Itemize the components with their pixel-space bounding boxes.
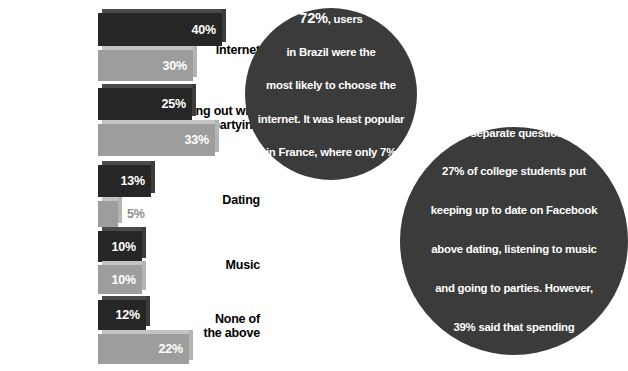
bar-top-face bbox=[102, 261, 146, 265]
bar-value-dating-light: 5% bbox=[127, 208, 145, 221]
callout-two-line2: answer to bbox=[489, 88, 540, 100]
callout-two-text: In answer to a separate question, 27% of… bbox=[405, 27, 623, 371]
bar-top-face bbox=[102, 296, 150, 300]
bar-top-face bbox=[102, 161, 155, 165]
bar-side-face bbox=[118, 197, 122, 223]
bar-value-dating-dark: 13% bbox=[121, 175, 145, 188]
callout-one-line4: most likely to choose the bbox=[266, 79, 396, 91]
bar-value-internet-dark: 40% bbox=[192, 23, 216, 36]
bar-music-light: 10% bbox=[98, 265, 142, 294]
bar-dating-dark: 13% bbox=[98, 165, 151, 197]
callout-two-line5: keeping up to date on Facebook bbox=[431, 204, 598, 216]
bar-top-face bbox=[102, 84, 196, 88]
bar-top-face bbox=[102, 46, 197, 50]
bar-top-face bbox=[102, 330, 193, 334]
callout-two-line7: and going to parties. However, bbox=[435, 282, 593, 294]
callout-one-line8: 54% chose dating. bbox=[283, 212, 378, 224]
bar-value-none-light: 22% bbox=[159, 343, 183, 356]
bar-value-none-dark: 12% bbox=[116, 309, 140, 322]
bar-side-face bbox=[222, 9, 226, 42]
bar-value-going-out-light: 33% bbox=[185, 134, 209, 147]
bar-none-light: 22% bbox=[98, 334, 189, 364]
bar-value-going-out-dark: 25% bbox=[162, 98, 186, 111]
bar-chart: Internet 40% 30% Going out with friends/… bbox=[0, 0, 260, 371]
callout-two-line9: time with friends is most bbox=[450, 359, 577, 371]
bar-going-out-light: 33% bbox=[98, 124, 215, 156]
bar-side-face bbox=[142, 227, 146, 258]
callout-one-line7: preferred the internet and bbox=[265, 179, 397, 191]
bar-top-face bbox=[102, 120, 219, 124]
bar-internet-light: 30% bbox=[98, 50, 193, 81]
callout-circle-brazil-france: At 72%, users in Brazil were the most li… bbox=[245, 8, 417, 180]
bar-side-face bbox=[215, 120, 219, 152]
bar-none-dark: 12% bbox=[98, 300, 146, 330]
bar-side-face bbox=[193, 46, 197, 77]
callout-two-line3: a separate question, bbox=[461, 127, 566, 139]
bar-dating-light: 5% bbox=[98, 201, 118, 227]
bar-side-face bbox=[192, 84, 196, 116]
callout-one-line5: internet. It was least popular bbox=[258, 113, 404, 125]
bar-side-face bbox=[151, 161, 155, 193]
bar-going-out-dark: 25% bbox=[98, 88, 192, 120]
bar-internet-dark: 40% bbox=[98, 13, 222, 46]
category-label-dating: Dating bbox=[172, 194, 260, 208]
callout-circle-facebook-friends: In answer to a separate question, 27% of… bbox=[400, 127, 628, 355]
callout-two-line6: above dating, listening to music bbox=[431, 243, 596, 255]
callout-two-line1: In bbox=[509, 49, 519, 61]
callout-one-text: At 72%, users in Brazil were the most li… bbox=[249, 0, 413, 227]
bar-side-face bbox=[146, 296, 150, 326]
callout-one-stat-72: 72% bbox=[299, 10, 327, 26]
bar-top-face bbox=[102, 227, 146, 231]
callout-one-line2-post: , users bbox=[328, 13, 363, 25]
bar-value-music-dark: 10% bbox=[112, 240, 136, 253]
bar-value-internet-light: 30% bbox=[163, 59, 187, 72]
callout-two-line8: 39% said that spending bbox=[453, 321, 574, 333]
bar-music-dark: 10% bbox=[98, 231, 142, 262]
bar-face bbox=[98, 201, 118, 227]
bar-top-face bbox=[102, 9, 226, 13]
bar-side-face bbox=[189, 330, 193, 360]
category-label-music: Music bbox=[172, 259, 260, 273]
callout-one-line3: in Brazil were the bbox=[286, 46, 375, 58]
callout-two-line4: 27% of college students put bbox=[442, 165, 586, 177]
callout-one-line6: in France, where only 7% bbox=[266, 146, 396, 158]
bar-value-music-light: 10% bbox=[112, 273, 136, 286]
bar-side-face bbox=[142, 261, 146, 290]
